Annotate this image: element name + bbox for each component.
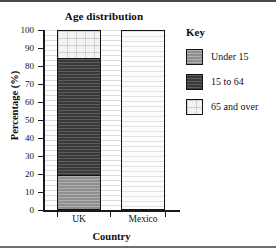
legend-item-under-15[interactable]: Under 15: [186, 45, 276, 68]
y-tick-70: [38, 84, 43, 85]
y-tick-label-10: 10: [10, 188, 34, 197]
y-tick-30: [38, 156, 43, 157]
page-title: Age distribution: [34, 10, 174, 22]
bar-uk[interactable]: [57, 30, 101, 210]
legend-label-15-to-64: 15 to 64: [211, 76, 244, 87]
y-axis-line: [43, 30, 45, 212]
bar-segment-uk-15-to-64[interactable]: [58, 59, 100, 175]
y-tick-90: [38, 48, 43, 49]
legend-swatch-under-15: [186, 49, 203, 65]
y-tick-0: [38, 210, 43, 211]
y-tick-10: [38, 192, 43, 193]
y-tick-label-0: 0: [10, 206, 34, 215]
x-tick-middle: [110, 212, 111, 217]
scan-edge-top: [0, 0, 276, 2]
legend-swatch-65-and-over: [186, 99, 203, 115]
x-axis-line: [43, 210, 180, 212]
bar-mexico[interactable]: [121, 30, 165, 210]
legend-swatch-15-to-64: [186, 74, 203, 90]
y-tick-80: [38, 66, 43, 67]
y-tick-100: [38, 30, 43, 31]
legend-label-65-and-over: 65 and over: [211, 101, 258, 112]
y-axis-title: Percentage (%): [9, 46, 20, 166]
x-axis-title: Country: [43, 231, 180, 242]
legend-item-65-and-over[interactable]: 65 and over: [186, 95, 276, 118]
legend-item-15-to-64[interactable]: 15 to 64: [186, 70, 276, 93]
y-tick-label-100: 100: [10, 26, 34, 35]
chart-canvas: Age distribution 100 90 80 70 60 50 40 3…: [0, 0, 276, 248]
x-label-uk: UK: [57, 214, 101, 224]
legend: Key Under 15 15 to 64 65 and over: [186, 26, 276, 120]
x-label-mexico: Mexico: [118, 214, 168, 224]
bar-segment-uk-65-and-over[interactable]: [58, 31, 100, 58]
y-tick-20: [38, 174, 43, 175]
legend-title: Key: [186, 26, 276, 38]
legend-label-under-15: Under 15: [211, 51, 249, 62]
y-tick-label-20: 20: [10, 170, 34, 179]
y-tick-60: [38, 102, 43, 103]
y-tick-40: [38, 138, 43, 139]
y-tick-50: [38, 120, 43, 121]
bar-segment-uk-under-15[interactable]: [58, 176, 100, 209]
